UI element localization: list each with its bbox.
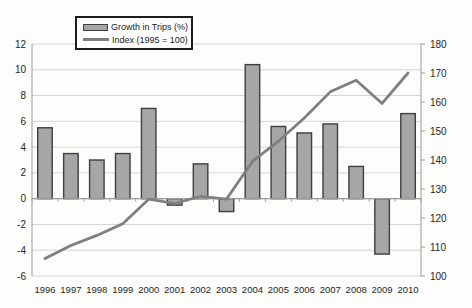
- bar-1997: [64, 154, 79, 199]
- x-axis-year-label: 1997: [60, 284, 81, 295]
- right-axis-tick-label: 100: [430, 271, 447, 282]
- x-axis-year-label: 2010: [397, 284, 418, 295]
- legend-label-growth: Growth in Trips (%): [111, 22, 188, 32]
- bar-series-swatch-icon: [83, 24, 108, 31]
- left-axis-tick-label: 6: [20, 116, 26, 127]
- bar-1996: [38, 128, 53, 199]
- bar-1999: [116, 154, 131, 199]
- left-axis-tick-label: 0: [20, 193, 26, 204]
- right-axis-tick-label: 150: [430, 126, 447, 137]
- right-axis-tick-label: 130: [430, 184, 447, 195]
- left-axis-tick-label: 10: [15, 64, 27, 75]
- x-axis-year-label: 2007: [320, 284, 341, 295]
- bar-2004: [245, 65, 260, 199]
- left-axis-tick-label: 12: [15, 39, 27, 50]
- legend-label-index: Index (1995 = 100): [112, 35, 188, 45]
- bar-2007: [323, 124, 338, 199]
- x-axis-year-label: 2001: [164, 284, 185, 295]
- left-axis-tick-label: -4: [17, 245, 26, 256]
- left-axis-tick-label: -6: [17, 271, 26, 282]
- right-axis-tick-label: 180: [430, 39, 447, 50]
- legend-entry-index: Index (1995 = 100): [83, 34, 186, 47]
- right-axis-tick-label: 170: [430, 68, 447, 79]
- line-series-swatch-icon: [83, 38, 109, 41]
- x-axis-year-label: 2005: [268, 284, 289, 295]
- chart-plot-area: 121086420-2-4-61801701601501401301201101…: [0, 0, 472, 308]
- bar-2010: [401, 114, 416, 199]
- x-axis-year-label: 2004: [242, 284, 263, 295]
- bar-2003: [219, 199, 234, 212]
- chart-legend: Growth in Trips (%) Index (1995 = 100): [75, 16, 193, 50]
- x-axis-year-label: 2006: [294, 284, 315, 295]
- bar-2008: [349, 166, 364, 198]
- right-axis-tick-label: 160: [430, 97, 447, 108]
- x-axis-year-label: 2008: [346, 284, 367, 295]
- left-axis-tick-label: 2: [20, 167, 26, 178]
- x-axis-year-label: 1999: [112, 284, 133, 295]
- x-axis-year-label: 1996: [34, 284, 55, 295]
- left-axis-tick-label: -2: [17, 219, 26, 230]
- bar-2002: [193, 164, 208, 199]
- x-axis-year-label: 2003: [216, 284, 237, 295]
- bar-2009: [375, 199, 390, 254]
- left-axis-tick-label: 8: [20, 90, 26, 101]
- bar-1998: [90, 160, 105, 199]
- x-axis-year-label: 2009: [372, 284, 393, 295]
- x-axis-year-label: 2000: [138, 284, 159, 295]
- left-axis-tick-label: 4: [20, 142, 26, 153]
- x-axis-year-label: 1998: [86, 284, 107, 295]
- combo-chart: 121086420-2-4-61801701601501401301201101…: [0, 0, 472, 308]
- right-axis-tick-label: 120: [430, 213, 447, 224]
- x-axis-year-label: 2002: [190, 284, 211, 295]
- bar-2000: [141, 108, 156, 198]
- legend-entry-growth: Growth in Trips (%): [83, 21, 186, 34]
- bar-2006: [297, 133, 312, 199]
- right-axis-tick-label: 140: [430, 155, 447, 166]
- right-axis-tick-label: 110: [430, 242, 446, 253]
